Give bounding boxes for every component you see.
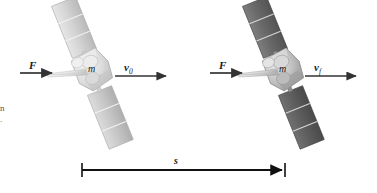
velocity-initial-subscript: 0 — [129, 67, 133, 76]
satellite-initial — [22, 0, 139, 161]
velocity-final-subscript: f — [319, 67, 321, 76]
force-label-left: F — [29, 59, 36, 71]
displacement-label: s — [174, 155, 178, 166]
mass-label-right: m — [279, 63, 286, 74]
edge-caption-line-2: . — [0, 114, 6, 125]
figure-canvas — [0, 0, 377, 193]
satellite-final — [213, 0, 330, 161]
edge-caption-fragment: n . — [0, 103, 6, 125]
velocity-final-label: vf — [314, 61, 321, 76]
solar-panel-lower — [87, 86, 133, 150]
velocity-initial-label: v0 — [124, 61, 133, 76]
solar-panel-upper — [51, 0, 96, 58]
physics-figure: F F m m v0 vf s n . — [0, 0, 377, 193]
edge-caption-line-1: n — [0, 103, 6, 114]
solar-panel-upper — [242, 0, 287, 58]
displacement-measure — [82, 163, 285, 177]
force-label-right: F — [219, 59, 226, 71]
mass-label-left: m — [88, 63, 95, 74]
solar-panel-lower — [278, 86, 324, 150]
